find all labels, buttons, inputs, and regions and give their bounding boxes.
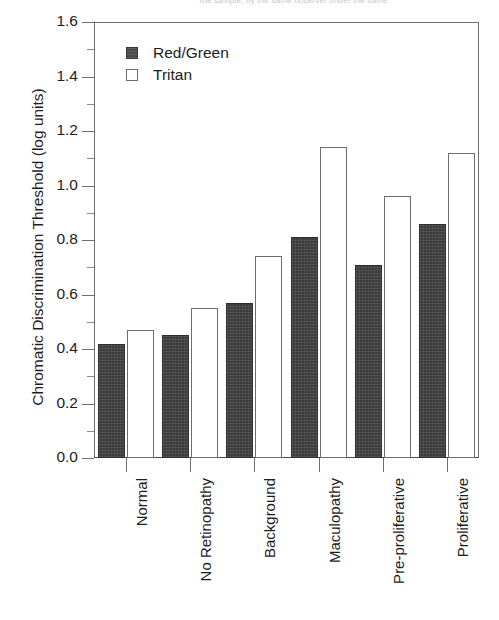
y-axis-tick-major <box>82 349 94 350</box>
y-axis-tick-minor <box>87 49 94 50</box>
y-axis-tick-label: 0.0 <box>18 449 78 465</box>
bar-red-green <box>226 303 253 458</box>
x-axis-tick <box>447 458 448 472</box>
y-axis-tick-minor <box>87 431 94 432</box>
x-axis-tick <box>190 458 191 472</box>
y-axis-tick-label: 0.4 <box>18 340 78 356</box>
x-axis-tick <box>383 458 384 472</box>
y-axis-tick-major <box>82 131 94 132</box>
y-axis-tick-label: 1.0 <box>18 177 78 193</box>
bar-tritan <box>191 308 218 458</box>
bar-tritan <box>384 196 411 458</box>
chart-legend: Red/GreenTritan <box>126 42 229 86</box>
bar-red-green <box>419 224 446 458</box>
y-axis-tick-label: 1.4 <box>18 68 78 84</box>
bar-tritan <box>448 153 475 458</box>
y-axis-tick-major <box>82 458 94 459</box>
legend-item: Red/Green <box>126 42 229 64</box>
y-axis-tick-major <box>82 240 94 241</box>
legend-swatch-icon <box>126 47 138 59</box>
bar-red-green <box>291 237 318 458</box>
y-axis-tick-minor <box>87 322 94 323</box>
bar-red-green <box>355 265 382 458</box>
y-axis-tick-label: 0.6 <box>18 286 78 302</box>
bar-red-green <box>98 344 125 458</box>
x-axis-tick <box>319 458 320 472</box>
x-axis-tick <box>254 458 255 472</box>
y-axis-tick-major <box>82 77 94 78</box>
legend-item: Tritan <box>126 64 229 86</box>
y-axis-tick-minor <box>87 376 94 377</box>
y-axis-tick-label: 0.2 <box>18 395 78 411</box>
bar-tritan <box>255 256 282 458</box>
bar-tritan <box>320 147 347 458</box>
x-axis-tick-label: Proliferative <box>454 478 471 557</box>
y-axis-tick-label: 0.8 <box>18 231 78 247</box>
legend-label: Tritan <box>153 66 192 84</box>
y-axis-tick-label: 1.6 <box>18 13 78 29</box>
bar-tritan <box>127 330 154 458</box>
y-axis-tick-minor <box>87 213 94 214</box>
x-axis-tick-label: Background <box>261 478 278 558</box>
y-axis-tick-major <box>82 186 94 187</box>
y-axis-tick-label: 1.2 <box>18 122 78 138</box>
y-axis-tick-major <box>82 22 94 23</box>
x-axis-tick-label: No Retinopathy <box>197 478 214 581</box>
x-axis-tick-label: Normal <box>133 478 150 526</box>
y-axis-tick-minor <box>87 104 94 105</box>
legend-swatch-icon <box>126 69 138 81</box>
y-axis-tick-major <box>82 295 94 296</box>
x-axis-tick-label: Maculopathy <box>326 478 343 563</box>
legend-label: Red/Green <box>153 44 229 62</box>
y-axis-tick-major <box>82 404 94 405</box>
x-axis-tick <box>126 458 127 472</box>
bar-red-green <box>162 335 189 458</box>
y-axis-tick-minor <box>87 267 94 268</box>
y-axis-tick-minor <box>87 158 94 159</box>
bar-chart: Chromatic Discrimination Threshold (log … <box>0 0 499 620</box>
x-axis-tick-label: Pre-proliferative <box>390 478 407 584</box>
